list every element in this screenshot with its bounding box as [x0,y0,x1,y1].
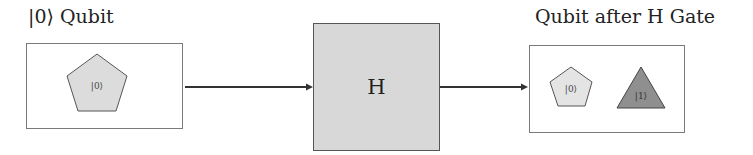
input-qubit-title: |0⟩ Qubit [28,5,114,27]
arrow-gate-to-output [440,81,535,93]
output-triangle-label: |1⟩ [635,91,647,102]
gate-label: H [367,75,385,99]
output-triangle-shape: |1⟩ [617,67,667,109]
output-pentagon-label: |0⟩ [565,84,577,95]
output-qubit-title: Qubit after H Gate [535,5,715,27]
input-pentagon-label: |0⟩ [91,81,103,92]
arrow-input-to-gate [185,81,315,93]
output-pentagon-shape: |0⟩ [550,67,592,107]
hadamard-gate-box: H [313,23,440,151]
input-pentagon-shape: |0⟩ [67,54,127,114]
